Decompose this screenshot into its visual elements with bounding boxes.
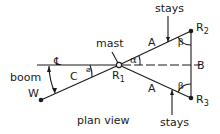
mast-pointer: [112, 52, 118, 63]
label-phi: ⌀: [86, 66, 91, 74]
label-beta-bottom: β: [178, 81, 184, 91]
point-w-icon: [39, 98, 44, 103]
point-r1-icon: [116, 62, 121, 67]
label-a-top: A: [148, 37, 156, 48]
label-a-bottom: A: [148, 83, 156, 94]
plan-view-diagram: mast stays stays boom W C ℄ A A B β β α …: [0, 0, 220, 134]
boom-line: [41, 65, 119, 100]
label-mast: mast: [96, 38, 124, 49]
caption-plan-view: plan view: [77, 115, 130, 126]
label-w: W: [28, 88, 39, 99]
label-b: B: [197, 60, 205, 71]
label-stays-top: stays: [155, 3, 184, 14]
point-r2-icon: [189, 29, 194, 34]
label-boom: boom: [10, 72, 41, 83]
label-stays-bottom: stays: [160, 117, 189, 128]
label-r2: R2: [196, 22, 209, 36]
label-beta-top: β: [178, 37, 184, 47]
label-c: C: [70, 71, 78, 82]
point-r3-icon: [189, 96, 194, 101]
arrowhead-icon: [170, 90, 174, 95]
alpha-arc: [139, 56, 140, 65]
label-centerline: ℄: [54, 56, 61, 67]
label-r1: R1: [112, 70, 125, 84]
arrowhead-icon: [47, 66, 51, 72]
label-r3: R3: [196, 94, 209, 108]
label-alpha: α: [130, 55, 137, 65]
